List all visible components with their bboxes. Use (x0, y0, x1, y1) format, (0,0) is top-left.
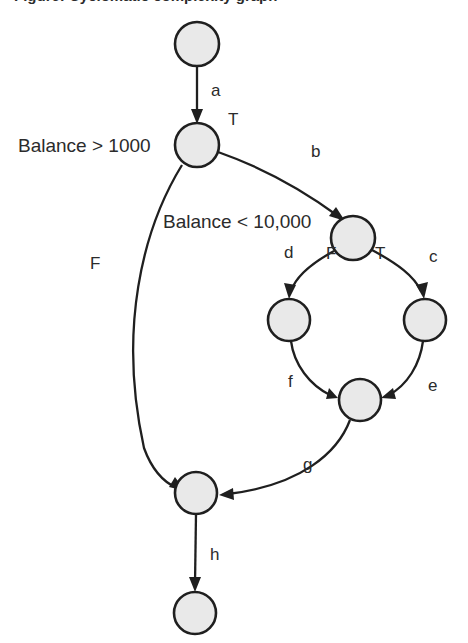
edge-label-h: h (210, 545, 219, 564)
edge-label-f: f (288, 372, 293, 391)
edge-label-g: g (303, 455, 312, 474)
edge-g-path (228, 420, 350, 494)
merge-node[interactable] (175, 472, 217, 514)
start-node[interactable] (175, 22, 219, 66)
branch-label-true-1: T (228, 110, 238, 129)
edge-h-arrowhead (189, 577, 201, 592)
join-node[interactable] (339, 379, 381, 421)
edge-label-false-long: F (90, 254, 100, 273)
edge-b-path (218, 152, 338, 216)
edge-g (219, 420, 350, 500)
end-node[interactable] (174, 592, 216, 634)
edge-g-arrowhead (219, 488, 234, 500)
edge-label-c: c (429, 247, 438, 266)
edge-f (291, 341, 338, 399)
edge-label-d: d (284, 243, 293, 262)
decision-node-2[interactable] (331, 216, 375, 260)
condition-label-balance-less: Balance < 10,000 (163, 211, 311, 232)
edge-label-a: a (211, 81, 221, 100)
branch-label-true-2: T (375, 244, 385, 263)
branch-node-left[interactable] (268, 299, 310, 341)
edge-label-b: b (311, 142, 320, 161)
edge-e-arrowhead (381, 388, 396, 399)
edge-d-arrowhead (284, 283, 296, 299)
edge-f-arrowhead (326, 388, 338, 399)
branch-label-false-2: F (326, 244, 336, 263)
edge-label-e: e (428, 376, 437, 395)
edge-h (189, 514, 201, 592)
edge-f-path (291, 341, 330, 395)
flow-graph-canvas: a b c d e f g h F T F T Balance > 1000 B… (0, 0, 468, 643)
edge-a (191, 66, 203, 124)
edge-e (381, 341, 423, 399)
branch-node-right[interactable] (404, 299, 446, 341)
decision-node-1[interactable] (175, 123, 219, 167)
condition-label-balance-greater: Balance > 1000 (18, 135, 151, 156)
edge-h-path (195, 514, 196, 584)
edge-e-path (389, 341, 423, 395)
